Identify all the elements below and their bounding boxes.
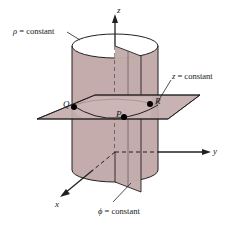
annotation-rho-constant: ρ = constant: [13, 27, 54, 36]
cylindrical-coordinates-figure: z y x Q P R ρ = constant z = constant ϕ …: [0, 0, 237, 229]
leader-line-phi: [113, 183, 131, 202]
axis-label-x: x: [55, 200, 59, 209]
point-label-Q: Q: [63, 100, 70, 109]
annotation-z-constant: z = constant: [172, 72, 213, 81]
point-label-R: R: [155, 97, 161, 106]
z-constant-text: = constant: [175, 71, 212, 81]
point-label-P: P: [116, 110, 122, 119]
annotation-phi-constant: ϕ = constant: [98, 207, 140, 216]
rho-constant-text: = constant: [17, 26, 54, 36]
point-marker-Q: [71, 104, 77, 110]
phi-constant-text: = constant: [102, 206, 139, 216]
leader-line-rho: [67, 32, 80, 40]
axis-label-y: y: [213, 147, 217, 156]
point-marker-R: [147, 101, 153, 107]
axis-label-z: z: [117, 6, 121, 15]
